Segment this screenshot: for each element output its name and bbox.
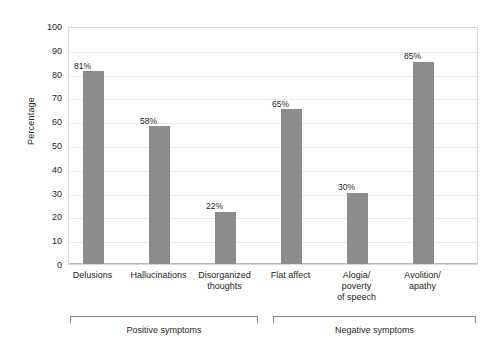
y-tick-70: 70 <box>30 93 62 103</box>
bracket-positive-symptoms <box>70 316 258 323</box>
y-tick-50: 50 <box>30 141 62 151</box>
y-tick-60: 60 <box>30 117 62 127</box>
bar-hallucinations[interactable] <box>149 126 170 264</box>
bracket-negative-symptoms <box>273 316 476 323</box>
bar-value-avolition: 85% <box>383 51 443 61</box>
y-tick-0: 0 <box>30 260 62 270</box>
y-tick-90: 90 <box>30 46 62 56</box>
bracket-label-positive-symptoms: Positive symptoms <box>70 325 258 335</box>
y-tick-10: 10 <box>30 236 62 246</box>
bar-value-disorganized-thoughts: 22% <box>185 201 245 211</box>
category-line-2: apathy <box>380 281 466 292</box>
bar-flat-affect[interactable] <box>281 109 302 264</box>
category-line-1: Avolition/ <box>380 270 466 281</box>
category-line-2: thoughts <box>182 281 268 292</box>
bar-value-flat-affect: 65% <box>251 99 311 109</box>
category-label-avolition: Avolition/ apathy <box>380 270 466 292</box>
y-tick-100: 100 <box>30 22 62 32</box>
y-tick-40: 40 <box>30 165 62 175</box>
bar-value-hallucinations: 58% <box>119 116 179 126</box>
y-tick-30: 30 <box>30 189 62 199</box>
bar-chart: Percentage 100 90 80 70 60 50 40 30 20 1… <box>0 0 503 350</box>
y-tick-20: 20 <box>30 212 62 222</box>
bar-alogia[interactable] <box>347 193 368 264</box>
plot-area <box>68 27 478 265</box>
bar-value-alogia: 30% <box>317 182 377 192</box>
bar-delusions[interactable] <box>83 71 104 264</box>
bar-value-delusions: 81% <box>53 61 113 71</box>
category-line-3: of speech <box>314 292 400 303</box>
bracket-label-negative-symptoms: Negative symptoms <box>273 325 476 335</box>
y-tick-80: 80 <box>30 70 62 80</box>
bar-avolition[interactable] <box>413 62 434 264</box>
bar-disorganized-thoughts[interactable] <box>215 212 236 264</box>
